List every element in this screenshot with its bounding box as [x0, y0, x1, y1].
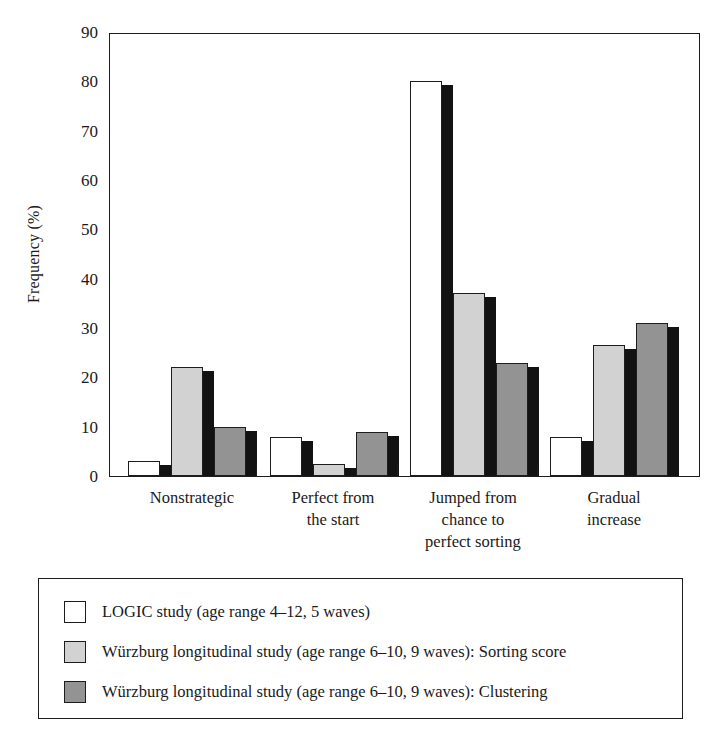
y-axis-tick-label: 30 [38, 320, 98, 337]
y-axis-tick-label: 10 [38, 419, 98, 436]
bar-face [270, 437, 302, 476]
y-axis-tick-label: 60 [38, 172, 98, 189]
bar [636, 34, 681, 476]
y-axis-tick-label: 0 [38, 468, 98, 485]
y-axis-tick-label: 80 [38, 73, 98, 90]
legend-swatch [64, 641, 86, 663]
bar-face [636, 323, 668, 476]
bar [313, 34, 358, 476]
bar-face [171, 367, 203, 476]
bar-face [356, 432, 388, 476]
legend-label: Würzburg longitudinal study (age range 6… [102, 642, 566, 662]
bar-face [128, 461, 160, 476]
bar-face [313, 464, 345, 476]
group-separator-tick [256, 465, 257, 476]
x-axis-category-line: perfect sorting [383, 531, 563, 553]
legend-swatch [64, 601, 86, 623]
legend-box: LOGIC study (age range 4–12, 5 waves)Wür… [38, 578, 683, 719]
bar [593, 34, 638, 476]
y-axis-tick-label: 20 [38, 369, 98, 386]
legend-label: LOGIC study (age range 4–12, 5 waves) [102, 602, 370, 622]
y-axis-tick-label: 40 [38, 271, 98, 288]
legend-item: LOGIC study (age range 4–12, 5 waves) [64, 599, 370, 625]
bar-face [550, 437, 582, 476]
bar [171, 34, 216, 476]
legend-swatch [64, 681, 86, 703]
bar-face [593, 345, 625, 476]
bar [496, 34, 541, 476]
bar [550, 34, 595, 476]
bar-face [410, 81, 442, 476]
plot-area [109, 33, 700, 477]
x-axis-category-line: increase [524, 509, 704, 531]
legend-label: Würzburg longitudinal study (age range 6… [102, 682, 548, 702]
y-axis-tick-label: 70 [38, 123, 98, 140]
group-separator-tick [537, 465, 538, 476]
y-axis-tick-label: 50 [38, 221, 98, 238]
bar [128, 34, 173, 476]
legend-item: Würzburg longitudinal study (age range 6… [64, 679, 548, 705]
group-separator-tick [397, 465, 398, 476]
bar [356, 34, 401, 476]
bar-face [496, 363, 528, 476]
bar [214, 34, 259, 476]
bar [453, 34, 498, 476]
legend-item: Würzburg longitudinal study (age range 6… [64, 639, 566, 665]
bar-face [214, 427, 246, 476]
bar-face [453, 293, 485, 476]
bar [270, 34, 315, 476]
x-axis-category-label: Gradualincrease [524, 487, 704, 531]
y-axis-tick-label: 90 [38, 24, 98, 41]
bar [410, 34, 455, 476]
x-axis-category-line: Gradual [524, 487, 704, 509]
bar-chart-figure: Frequency (%) 0102030405060708090 Nonstr… [0, 0, 721, 753]
bars-layer [110, 34, 699, 476]
